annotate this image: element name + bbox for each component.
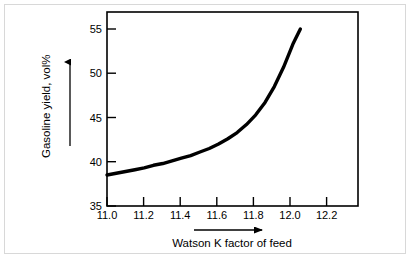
chart-canvas: 55 50 45 40 35 11.0 11.2 11.4 11.6 11.8 … xyxy=(0,0,410,258)
y-tick-label-55: 55 xyxy=(90,23,102,35)
y-tick-label-45: 45 xyxy=(90,112,102,124)
plot-area-border xyxy=(107,12,358,206)
y-tick-label-50: 50 xyxy=(90,67,102,79)
gasoline-yield-curve xyxy=(107,29,300,175)
x-tick-label-12-0: 12.0 xyxy=(279,209,300,221)
x-tick-label-11-6: 11.6 xyxy=(207,209,228,221)
x-axis-title: Watson K factor of feed xyxy=(172,237,292,249)
x-tick-label-12-2: 12.2 xyxy=(316,209,337,221)
x-tick-label-11-8: 11.8 xyxy=(243,209,264,221)
x-axis-tick-labels: 11.0 11.2 11.4 11.6 11.8 12.0 12.2 xyxy=(97,209,338,221)
y-tick-label-40: 40 xyxy=(90,156,102,168)
x-tick-label-11-0: 11.0 xyxy=(97,209,118,221)
x-axis-ticks xyxy=(107,197,327,206)
y-axis-tick-labels: 55 50 45 40 35 xyxy=(90,23,102,212)
x-tick-label-11-4: 11.4 xyxy=(170,209,191,221)
y-axis-title: Gasoline yield, vol% xyxy=(40,54,52,158)
x-tick-label-11-2: 11.2 xyxy=(133,209,154,221)
chart-figure: 55 50 45 40 35 11.0 11.2 11.4 11.6 11.8 … xyxy=(0,0,410,258)
y-axis-ticks xyxy=(107,29,116,206)
